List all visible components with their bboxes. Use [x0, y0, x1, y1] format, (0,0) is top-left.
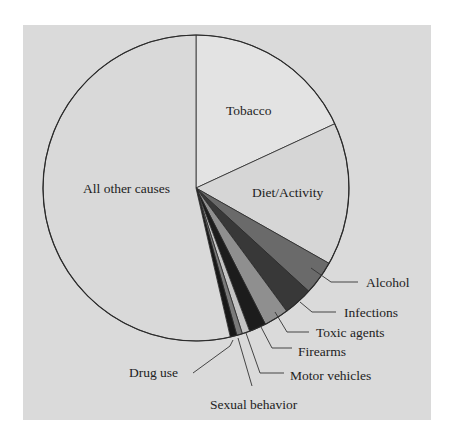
label-sexual-behavior: Sexual behavior	[210, 397, 298, 412]
leader-motor	[246, 333, 284, 373]
leader-firearms	[261, 327, 292, 348]
label-all-other-causes: All other causes	[83, 181, 170, 196]
label-drug-use: Drug use	[129, 365, 178, 380]
label-toxic-agents: Toxic agents	[316, 325, 384, 340]
label-motor-vehicles: Motor vehicles	[290, 368, 371, 383]
label-diet-activity: Diet/Activity	[252, 185, 323, 200]
pie-chart: Tobacco Diet/Activity All other causes A…	[0, 0, 452, 440]
label-tobacco: Tobacco	[226, 103, 272, 118]
leader-infections	[300, 302, 336, 312]
label-firearms: Firearms	[298, 344, 346, 359]
leader-drug	[193, 340, 233, 373]
label-alcohol: Alcohol	[366, 275, 410, 290]
label-infections: Infections	[344, 305, 398, 320]
